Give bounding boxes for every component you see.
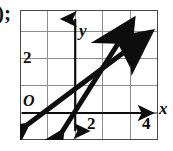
x-axis-label: x bbox=[159, 100, 168, 117]
coordinate-plane: y x O 2 2 4 bbox=[20, 10, 158, 140]
x-tick-label-2: 2 bbox=[87, 115, 96, 132]
line-steep-segment bbox=[62, 20, 133, 132]
origin-label: O bbox=[23, 93, 35, 109]
y-axis-label: y bbox=[79, 22, 87, 39]
line-shallow-segment bbox=[27, 32, 151, 125]
graph-figure: ); bbox=[0, 0, 173, 151]
x-tick-label-4: 4 bbox=[142, 115, 151, 132]
cut-off-choice-text: ); bbox=[0, 3, 11, 24]
y-tick-label-2: 2 bbox=[23, 49, 32, 66]
